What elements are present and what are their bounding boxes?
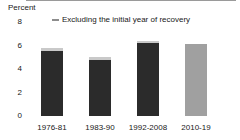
bar-1976-81 [41, 51, 63, 116]
bar-chart: Percent Excluding the initial year of re… [0, 0, 240, 140]
y-axis-tick-label: 0 [0, 112, 22, 120]
y-axis-tick-label: 4 [0, 65, 22, 73]
x-axis-tick-label: 1992-2008 [129, 123, 167, 132]
bar-1983-90 [89, 60, 111, 116]
bar-group [89, 0, 111, 116]
plot-area: 024681976-811983-901992-20082010-19 [0, 0, 240, 140]
y-axis-tick-label: 6 [0, 42, 22, 50]
x-axis-tick-label: 2010-19 [181, 123, 210, 132]
bar-group [185, 0, 207, 116]
bar-group [137, 0, 159, 116]
y-axis-tick-label: 8 [0, 18, 22, 26]
y-axis-tick-label: 2 [0, 89, 22, 97]
x-axis-tick-label: 1976-81 [37, 123, 66, 132]
x-axis-tick-label: 1983-90 [85, 123, 114, 132]
bar-1992-2008 [137, 43, 159, 116]
bar-2010-19 [185, 44, 207, 116]
bar-group [41, 0, 63, 116]
